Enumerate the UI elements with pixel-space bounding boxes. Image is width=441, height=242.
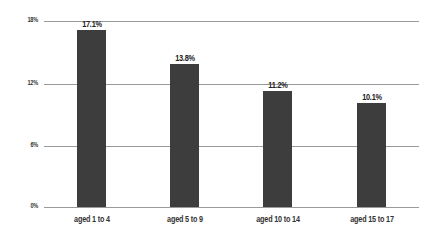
bar-value-label: 11.2% [253, 80, 302, 90]
bar-value-label: 10.1% [347, 92, 396, 102]
y-tick-12: 12% [11, 79, 38, 86]
baseline-0 [44, 207, 419, 208]
y-tick-18: 18% [11, 16, 38, 23]
bar-3 [263, 91, 292, 207]
y-tick-6: 6% [11, 141, 38, 148]
bar-1 [77, 30, 106, 207]
bar-4 [357, 103, 386, 207]
bar-chart: 18% 12% 6% 0% 17.1%aged 1 to 413.8%aged … [0, 0, 441, 242]
x-category-label: aged 5 to 9 [146, 214, 223, 224]
bar-value-label: 17.1% [67, 19, 116, 29]
bar-value-label: 13.8% [160, 53, 209, 63]
y-tick-0: 0% [11, 202, 38, 209]
x-category-label: aged 1 to 4 [53, 214, 130, 224]
x-category-label: aged 10 to 14 [239, 214, 316, 224]
bar-2 [170, 64, 199, 207]
x-category-label: aged 15 to 17 [333, 214, 410, 224]
